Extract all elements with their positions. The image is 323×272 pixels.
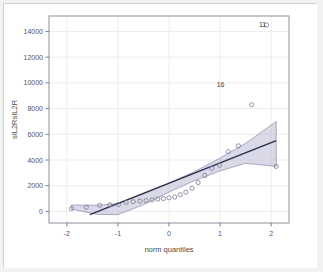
outlier-label: 16 [217,81,225,88]
qq-plot: 1116 02000400060008000100001200014000-2-… [4,4,317,268]
figure-frame: 1116 02000400060008000100001200014000-2-… [3,3,316,267]
x-tick-label: 1 [218,230,222,237]
outlier-label: 11 [259,21,266,28]
y-tick-label: 6000 [27,131,43,138]
x-tick-label: 2 [269,230,273,237]
y-tick-label: 0 [39,208,43,215]
qq-plot-svg: 1116 02000400060008000100001200014000-2-… [4,4,317,268]
x-tick-label: -2 [64,230,70,237]
y-tick-label: 10000 [24,79,44,86]
y-tick-label: 4000 [27,157,43,164]
y-tick-label: 14000 [24,28,44,35]
y-tick-label: 2000 [27,182,43,189]
x-tick-label: 0 [167,230,171,237]
y-axis-title: sIL2RsIL2R [10,99,19,139]
y-tick-label: 8000 [27,105,43,112]
x-tick-label: -1 [115,230,121,237]
y-tick-label: 12000 [24,54,44,61]
x-axis-title: norm quantiles [144,245,193,254]
